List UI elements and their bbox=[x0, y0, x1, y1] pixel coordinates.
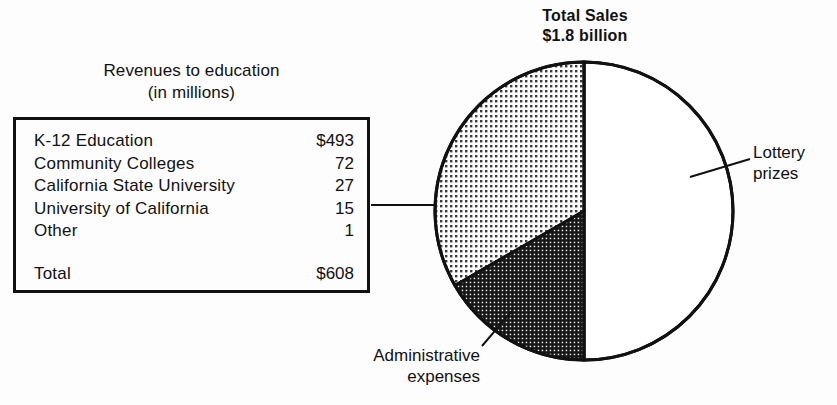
pie-label-lottery-line1: Lottery bbox=[753, 142, 837, 163]
pie-label-admin-line1: Administrative bbox=[352, 345, 480, 366]
pie-label-lottery-line2: prizes bbox=[753, 163, 837, 184]
pie-label-administrative-expenses: Administrative expenses bbox=[352, 345, 480, 387]
pie-slice-lottery-prizes bbox=[584, 62, 733, 360]
pie-label-lottery-prizes: Lottery prizes bbox=[753, 142, 837, 184]
pie-label-admin-line2: expenses bbox=[352, 366, 480, 387]
lottery-sales-figure: Revenues to education (in millions) K-12… bbox=[0, 0, 837, 405]
